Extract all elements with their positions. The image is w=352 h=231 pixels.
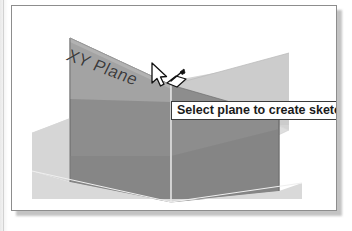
pointer-arrow-icon — [152, 63, 167, 86]
arrow-pointer-with-sketch-icon — [150, 62, 190, 98]
sketch-plane-badge-icon — [167, 76, 186, 87]
status-tooltip: Select plane to create sketch or — [171, 101, 336, 120]
figure-frame: XY Plane Select plane to create sketch o… — [11, 5, 337, 211]
screenshot-root: XY Plane Select plane to create sketch o… — [0, 0, 352, 231]
page-edge-artifact — [0, 0, 8, 231]
tooltip-text: Select plane to create sketch or — [177, 104, 336, 117]
page-edge-line — [3, 0, 4, 231]
cad-viewport[interactable]: XY Plane Select plane to create sketch o… — [12, 6, 336, 210]
